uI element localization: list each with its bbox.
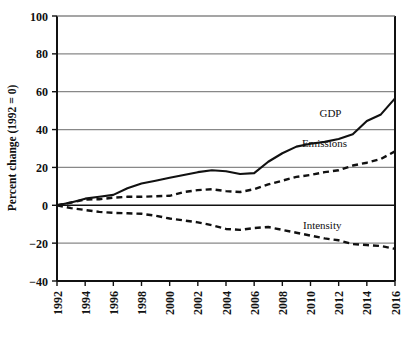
- x-tick-label-2012: 2012: [332, 291, 346, 315]
- series-label-gdp: GDP: [319, 107, 341, 119]
- y-tick-label-0: 0: [42, 199, 48, 213]
- x-tick-label-1998: 1998: [135, 291, 149, 315]
- y-tick-label--20: −20: [29, 237, 48, 251]
- x-tick-label-2002: 2002: [191, 291, 205, 315]
- chart-container: 100806040200−20−40 199219941996199820002…: [0, 0, 411, 340]
- x-tick-label-2010: 2010: [304, 291, 318, 315]
- x-tick-label-2014: 2014: [360, 291, 374, 315]
- y-tick-label-20: 20: [36, 161, 48, 175]
- x-tick-label-1992: 1992: [51, 291, 65, 315]
- x-tick-label-2008: 2008: [276, 291, 290, 315]
- y-tick-label-60: 60: [36, 85, 48, 99]
- percent-change-line-chart: 100806040200−20−40 199219941996199820002…: [0, 0, 411, 340]
- y-tick-label--40: −40: [29, 275, 48, 289]
- chart-background: [0, 0, 411, 340]
- x-tick-label-1996: 1996: [107, 291, 121, 315]
- x-tick-label-2000: 2000: [163, 291, 177, 315]
- series-label-intensity: Intensity: [303, 219, 342, 231]
- x-tick-label-2006: 2006: [248, 291, 262, 315]
- y-tick-label-80: 80: [36, 47, 48, 61]
- x-tick-label-2004: 2004: [220, 291, 234, 315]
- y-tick-label-100: 100: [30, 10, 48, 24]
- series-label-emissions: Emissions: [302, 137, 347, 149]
- y-tick-label-40: 40: [36, 123, 48, 137]
- x-tick-label-2016: 2016: [389, 291, 403, 315]
- x-tick-label-1994: 1994: [79, 291, 93, 315]
- y-axis-label: Percent change (1992 = 0): [6, 85, 19, 212]
